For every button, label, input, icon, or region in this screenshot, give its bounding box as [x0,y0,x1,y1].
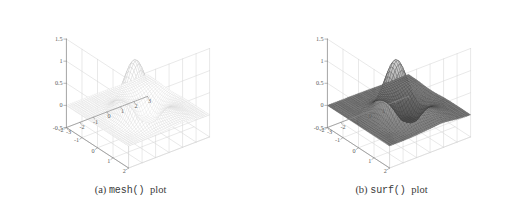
caption-surf: (b) surf() plot [261,183,522,198]
svg-text:-1: -1 [335,136,340,143]
svg-text:0: 0 [108,112,111,119]
surface-mesh [66,59,209,145]
svg-text:0: 0 [92,147,95,154]
svg-text:2: 2 [384,167,387,174]
svg-text:2: 2 [123,167,126,174]
svg-text:2: 2 [135,102,138,109]
surface-mesh [327,59,470,145]
plot-panel-mesh: -0.500.511.5-2-1012-3-2-10123 (a) mesh()… [0,0,261,215]
caption-tag-b: (b) [355,184,367,195]
svg-text:0.5: 0.5 [55,79,63,86]
svg-text:1: 1 [107,157,110,164]
svg-text:0: 0 [321,101,324,108]
svg-text:-3: -3 [66,128,71,135]
svg-text:-3: -3 [327,128,332,135]
svg-text:2: 2 [396,102,399,109]
caption-code-b: surf() [370,185,405,196]
caption-tag-a: (a) [95,184,107,195]
svg-text:3: 3 [409,97,412,104]
svg-text:0.5: 0.5 [316,79,324,86]
svg-text:3: 3 [148,97,151,104]
svg-text:0: 0 [60,101,63,108]
svg-text:-1: -1 [93,118,98,125]
svg-text:-1: -1 [354,118,359,125]
svg-text:0: 0 [369,112,372,119]
svg-text:-2: -2 [319,126,324,133]
caption-mesh: (a) mesh() plot [0,183,261,198]
svg-text:-1: -1 [74,136,79,143]
svg-text:1: 1 [121,107,124,114]
svg-text:1: 1 [382,107,385,114]
figure-container: -0.500.511.5-2-1012-3-2-10123 (a) mesh()… [0,0,523,215]
plot-panel-surf: -0.500.511.5-2-1012-3-2-10123 (b) surf()… [261,0,522,215]
svg-text:-2: -2 [80,123,85,130]
caption-tail-a: plot [150,184,166,195]
svg-text:0: 0 [353,147,356,154]
svg-text:1: 1 [60,57,63,64]
caption-tail-b: plot [411,184,427,195]
surf-plot-canvas: -0.500.511.5-2-1012-3-2-10123 [261,0,522,182]
svg-text:-2: -2 [58,126,63,133]
svg-text:1.5: 1.5 [316,35,324,42]
svg-text:-2: -2 [341,123,346,130]
mesh-plot-canvas: -0.500.511.5-2-1012-3-2-10123 [0,0,261,182]
svg-text:1: 1 [368,157,371,164]
svg-text:1.5: 1.5 [55,35,63,42]
caption-code-a: mesh() [109,185,144,196]
svg-text:1: 1 [321,57,324,64]
